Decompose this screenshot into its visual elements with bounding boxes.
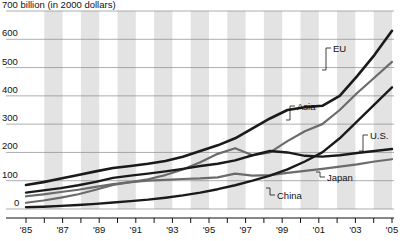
series-label-asia: Asia: [297, 101, 316, 112]
y-tick-label: 0: [14, 197, 19, 208]
year-band: [118, 11, 136, 209]
series-label-eu: EU: [333, 43, 346, 54]
year-band: [227, 11, 245, 209]
series-label-china: China: [277, 190, 303, 201]
chart-container: 0100200300400500600700 billion (in 2000 …: [0, 0, 400, 241]
series-label-us: U.S.: [370, 130, 388, 141]
cropped-footer-text: [0, 234, 400, 241]
y-tick-label: 100: [2, 169, 18, 180]
year-band: [264, 11, 282, 209]
y-tick-label: 400: [2, 84, 18, 95]
y-tick-label: 200: [2, 140, 18, 151]
line-chart: 0100200300400500600700 billion (in 2000 …: [0, 0, 400, 241]
chart-title-axis-label: 700 billion (in 2000 dollars): [2, 0, 116, 10]
y-tick-label: 600: [2, 27, 18, 38]
y-tick-label: 300: [2, 112, 18, 123]
series-label-japan: Japan: [327, 172, 353, 183]
y-tick-label: 500: [2, 56, 18, 67]
year-band: [374, 11, 392, 209]
year-band: [81, 11, 99, 209]
